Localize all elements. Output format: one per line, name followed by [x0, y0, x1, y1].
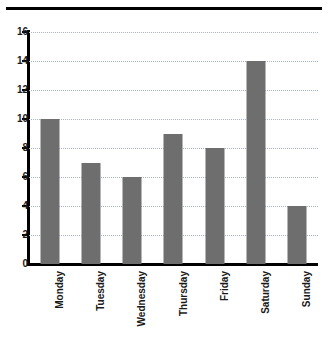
plot-area: [29, 32, 318, 264]
bar-chart-figure: 0246810121416 MondayTuesdayWednesdayThur…: [0, 0, 328, 338]
y-tick-label: 4: [4, 201, 28, 211]
y-tick-label: 0: [4, 259, 28, 269]
y-tick-label: 8: [4, 143, 28, 153]
y-tick-label: 2: [4, 230, 28, 240]
bar-slot: [235, 32, 276, 264]
bar[interactable]: [288, 206, 307, 264]
bar-slot: [194, 32, 235, 264]
bar-slot: [153, 32, 194, 264]
x-tick-label: Wednesday: [137, 271, 147, 326]
x-tick-label: Sunday: [302, 271, 312, 307]
x-tick-label: Tuesday: [96, 271, 106, 311]
x-tick-label: Saturday: [261, 271, 271, 314]
y-tick-label: 14: [4, 56, 28, 66]
bar-series: [29, 32, 318, 264]
y-tick-label: 10: [4, 114, 28, 124]
y-tick-label: 12: [4, 85, 28, 95]
x-tick-label: Thursday: [179, 271, 189, 316]
x-tick-label: Friday: [220, 271, 230, 301]
top-rule-divider: [6, 7, 322, 10]
bar-slot: [277, 32, 318, 264]
bar[interactable]: [123, 177, 142, 264]
bar[interactable]: [40, 119, 59, 264]
bar-slot: [112, 32, 153, 264]
bar[interactable]: [247, 61, 266, 264]
bar-slot: [29, 32, 70, 264]
y-tick-label: 6: [4, 172, 28, 182]
bar[interactable]: [205, 148, 224, 264]
bar-slot: [70, 32, 111, 264]
bar[interactable]: [164, 134, 183, 265]
y-tick-label: 16: [4, 27, 28, 37]
x-tick-label: Monday: [55, 271, 65, 309]
bar[interactable]: [81, 163, 100, 265]
